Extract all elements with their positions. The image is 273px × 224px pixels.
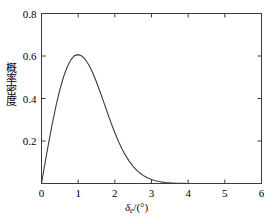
x-tick-label: 3	[149, 187, 155, 199]
x-tick-label: 0	[39, 187, 45, 199]
x-tick-label: 2	[112, 187, 118, 199]
x-tick-label: 4	[185, 187, 191, 199]
y-tick-label: 0.8	[23, 8, 37, 20]
x-axis-units: /(°)	[133, 201, 148, 213]
chart-canvas: 0123456 0.20.40.60.8	[0, 0, 273, 224]
y-tick-label: 0.4	[23, 93, 37, 105]
y-tick-label: 0.2	[23, 135, 37, 147]
y-tick-label: 0.6	[23, 50, 37, 62]
x-axis-tick-labels: 0123456	[39, 187, 265, 199]
x-tick-label: 1	[75, 187, 81, 199]
x-tick-label: 5	[222, 187, 228, 199]
figure-container: 0123456 0.20.40.60.8 概率密度 δe/(°)	[0, 0, 273, 224]
y-axis-title: 概率密度	[2, 62, 16, 106]
chart-axes: 0123456 0.20.40.60.8 概率密度 δe/(°)	[0, 0, 273, 224]
x-tick-label: 6	[259, 187, 265, 199]
y-axis-tick-labels: 0.20.40.60.8	[23, 8, 37, 148]
plot-frame	[42, 14, 262, 184]
x-axis-title: δe/(°)	[0, 201, 273, 215]
